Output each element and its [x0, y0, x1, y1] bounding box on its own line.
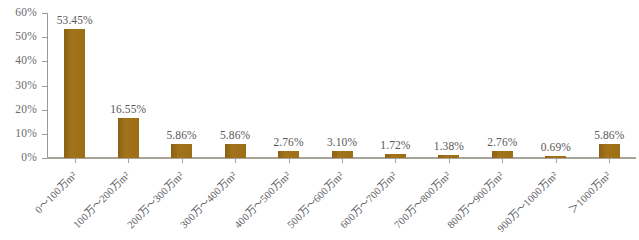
bar — [492, 151, 513, 158]
bar — [118, 118, 139, 158]
x-axis-tick-mark — [609, 159, 610, 163]
bar — [438, 155, 459, 158]
y-axis-tick-label: 0% — [0, 152, 37, 164]
x-axis-tick-mark — [128, 159, 129, 163]
bar-value-label: 53.45% — [45, 14, 105, 26]
bar-value-label: 16.55% — [98, 103, 158, 115]
y-axis-tick-mark — [42, 134, 47, 135]
x-axis-tick-mark — [235, 159, 236, 163]
y-axis-tick-mark — [42, 86, 47, 87]
bar — [385, 154, 406, 158]
x-axis-tick-mark — [556, 159, 557, 163]
x-axis-tick-mark — [395, 159, 396, 163]
bar — [278, 151, 299, 158]
x-axis-tick-mark — [289, 159, 290, 163]
x-axis-tick-mark — [449, 159, 450, 163]
bar-value-label: 3.10% — [312, 136, 372, 148]
bar — [599, 144, 620, 158]
bar-value-label: 2.76% — [259, 136, 319, 148]
y-axis-tick-label: 10% — [0, 128, 37, 140]
x-axis-tick-mark — [502, 159, 503, 163]
y-axis-tick-mark — [42, 61, 47, 62]
y-axis-tick-label: 40% — [0, 55, 37, 67]
x-axis-tick-mark — [342, 159, 343, 163]
y-axis-tick-label: 30% — [0, 80, 37, 92]
bar — [545, 156, 566, 158]
y-axis-tick-mark — [42, 158, 47, 159]
y-axis-tick-label: 50% — [0, 31, 37, 43]
x-axis-tick-mark — [75, 159, 76, 163]
y-axis-tick-mark — [42, 110, 47, 111]
y-axis-tick-mark — [42, 37, 47, 38]
bar-value-label: 5.86% — [152, 129, 212, 141]
bar-value-label: 5.86% — [579, 129, 639, 141]
bar — [64, 29, 85, 158]
bar-chart: 0%10%20%30%40%50%60% 53.45%0～100万m²16.55… — [0, 0, 639, 240]
bar-value-label: 0.69% — [526, 141, 586, 153]
bar — [332, 151, 353, 158]
bar-value-label: 2.76% — [472, 136, 532, 148]
bar-value-label: 1.72% — [365, 139, 425, 151]
x-axis-tick-mark — [182, 159, 183, 163]
x-axis-tick-label: 600万～700万m² — [250, 170, 399, 240]
y-axis-tick-label: 20% — [0, 104, 37, 116]
bar-value-label: 5.86% — [205, 129, 265, 141]
bar — [225, 144, 246, 158]
y-axis-tick-label: 60% — [0, 7, 37, 19]
bar — [171, 144, 192, 158]
bar-value-label: 1.38% — [419, 140, 479, 152]
